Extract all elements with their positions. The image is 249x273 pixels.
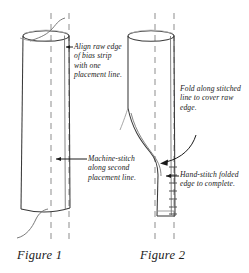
callout-fold-along-stitched-line: Fold along stitched line to cover raw ed… — [180, 84, 242, 112]
figure-1-callout-1-arrowhead — [66, 45, 70, 49]
figure-2-thread-left — [120, 108, 128, 130]
figure-2-fold-arrow-curve — [166, 135, 196, 162]
figure-2-folded-band-left — [157, 175, 158, 216]
callout-machine-stitch: Machine-stitch along second placement li… — [88, 154, 144, 182]
callout-hand-stitch: Hand-stitch folded edge to complete. — [180, 170, 242, 189]
figure-1-callout-2-arrowhead — [56, 157, 61, 161]
diagram-canvas: Align raw edge of bias strip with one pl… — [0, 0, 249, 273]
figure-1-cylinder-left-wall — [21, 36, 23, 209]
figure-1-tube-top-ellipse — [23, 31, 69, 41]
figure-1-caption: Figure 1 — [17, 248, 62, 263]
sewing-diagram-illustration — [0, 0, 249, 273]
figure-2-callout-2-arrowhead — [166, 174, 171, 178]
figure-2-group — [120, 13, 196, 243]
figure-2-caption: Figure 2 — [140, 248, 185, 263]
figure-2-tube-top-ellipse — [128, 31, 174, 41]
figure-2-bias-strip-edge — [171, 36, 172, 215]
figure-1-thread-bottom — [17, 209, 48, 238]
figure-2-hand-stitch-marks — [169, 167, 177, 214]
callout-align-raw-edge: Align raw edge of bias strip with one pl… — [74, 42, 122, 80]
figure-1-bias-strip-edge — [65, 36, 66, 211]
figure-2-fold-arrowhead — [160, 160, 168, 166]
